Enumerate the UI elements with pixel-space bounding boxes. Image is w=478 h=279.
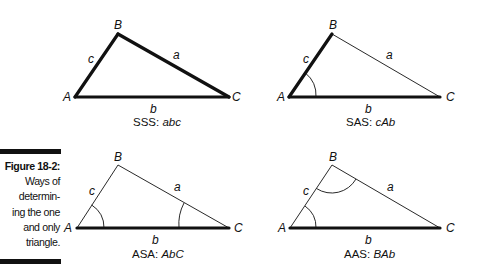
side-label-b: b xyxy=(152,233,159,247)
side-label-c: c xyxy=(88,52,94,66)
vertex-label-c: C xyxy=(446,90,455,104)
side-c xyxy=(290,165,332,228)
side-c xyxy=(77,165,118,228)
panel-sss: A B C c a b SSS: abc xyxy=(62,18,241,128)
side-a xyxy=(332,34,440,97)
panel-title-italic: cAb xyxy=(375,116,395,128)
side-label-c: c xyxy=(303,52,309,66)
angle-arc-a xyxy=(92,205,104,228)
panel-title: ASA: AbC xyxy=(132,248,184,260)
vertex-label-a: A xyxy=(63,221,72,235)
panel-title-prefix: AAS: xyxy=(344,248,373,260)
vertex-label-a: A xyxy=(276,90,285,104)
side-label-a: a xyxy=(173,48,180,62)
vertex-label-b: B xyxy=(329,18,337,32)
side-a xyxy=(118,34,229,97)
vertex-label-a: A xyxy=(277,221,286,235)
side-c xyxy=(289,34,332,97)
panel-title-prefix: SSS: xyxy=(133,116,162,128)
triangle-diagrams: A B C c a b SSS: abc A B C c a b SAS: cA… xyxy=(0,0,478,279)
panel-title-prefix: SAS: xyxy=(346,116,375,128)
side-label-c: c xyxy=(89,184,95,198)
vertex-label-c: C xyxy=(234,221,243,235)
side-label-b: b xyxy=(365,102,372,116)
side-label-a: a xyxy=(387,180,394,194)
angle-arc-c xyxy=(179,203,184,228)
panel-title: SSS: abc xyxy=(133,116,181,128)
side-label-a: a xyxy=(174,180,181,194)
panel-asa: A B C c a b ASA: AbC xyxy=(63,150,243,260)
vertex-label-c: C xyxy=(232,90,241,104)
angle-arc-b xyxy=(317,179,357,193)
panel-title-prefix: ASA: xyxy=(132,248,161,260)
side-label-b: b xyxy=(150,102,157,116)
panel-title: SAS: cAb xyxy=(346,116,396,128)
side-label-c: c xyxy=(303,184,309,198)
panel-title-italic: abc xyxy=(162,116,181,128)
panel-title-italic: AbC xyxy=(160,248,184,260)
vertex-label-b: B xyxy=(114,150,122,164)
side-a xyxy=(332,165,440,228)
side-label-a: a xyxy=(386,48,393,62)
side-c xyxy=(75,34,118,97)
angle-arc-a xyxy=(305,73,316,97)
panel-title-italic: BAb xyxy=(373,248,395,260)
vertex-label-c: C xyxy=(446,221,455,235)
angle-arc-a xyxy=(305,206,316,228)
panel-aas: A B C c a b AAS: BAb xyxy=(277,150,455,260)
side-label-b: b xyxy=(365,233,372,247)
vertex-label-b: B xyxy=(114,18,122,32)
panel-sas: A B C c a b SAS: cAb xyxy=(276,18,455,128)
vertex-label-b: B xyxy=(329,150,337,164)
side-a xyxy=(118,165,229,228)
vertex-label-a: A xyxy=(62,90,71,104)
panel-title: AAS: BAb xyxy=(344,248,396,260)
